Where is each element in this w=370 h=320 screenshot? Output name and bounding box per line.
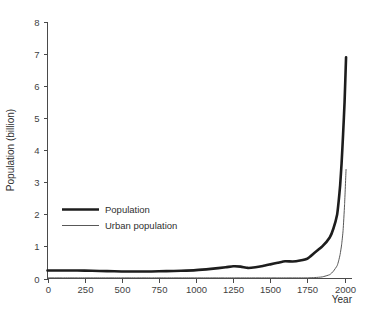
chart-background bbox=[0, 0, 370, 320]
y-tick-label: 5 bbox=[34, 113, 39, 124]
x-tick-label: 1750 bbox=[297, 284, 318, 295]
x-tick-label: 500 bbox=[115, 284, 131, 295]
x-tick-label: 1500 bbox=[260, 284, 281, 295]
legend-label-urban-population: Urban population bbox=[105, 220, 177, 231]
x-tick-label: 0 bbox=[46, 284, 51, 295]
y-tick-label: 1 bbox=[34, 241, 39, 252]
y-tick-label: 6 bbox=[34, 81, 39, 92]
chart-canvas: 012345678 025050075010001250150017502000… bbox=[0, 0, 370, 320]
y-tick-label-group: 012345678 bbox=[34, 17, 39, 285]
y-tick-label: 3 bbox=[34, 177, 39, 188]
x-tick-label-group: 025050075010001250150017502000 bbox=[46, 284, 356, 295]
y-tick-label: 8 bbox=[34, 17, 39, 28]
y-axis-title: Population (billion) bbox=[5, 109, 16, 191]
x-tick-label: 1250 bbox=[223, 284, 244, 295]
y-tick-label: 2 bbox=[34, 209, 39, 220]
y-tick-label: 7 bbox=[34, 49, 39, 60]
y-tick-label: 0 bbox=[34, 274, 39, 285]
y-tick-label: 4 bbox=[34, 145, 39, 156]
x-axis-title: Year bbox=[332, 294, 353, 305]
x-tick-label: 750 bbox=[152, 284, 168, 295]
x-tick-label: 1000 bbox=[186, 284, 207, 295]
x-tick-label: 2000 bbox=[335, 284, 356, 295]
population-growth-chart: 012345678 025050075010001250150017502000… bbox=[0, 0, 370, 320]
legend-label-population: Population bbox=[105, 204, 150, 215]
x-tick-label: 250 bbox=[78, 284, 94, 295]
